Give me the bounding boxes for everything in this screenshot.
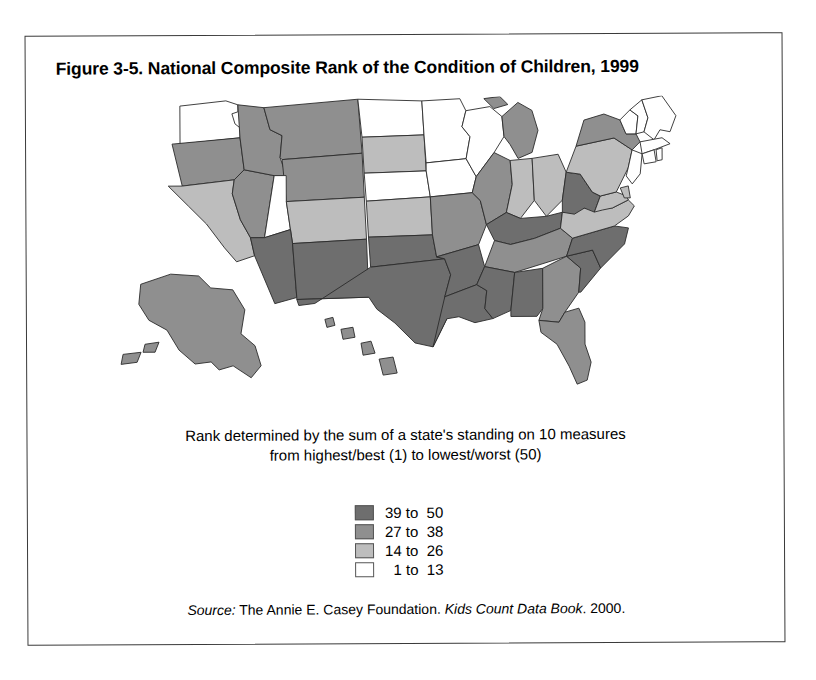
state-hi: Hawaii [379, 357, 397, 375]
state-hi: Hawaii [325, 317, 335, 327]
state-ia: Iowa [426, 159, 476, 197]
state-ri: Rhode Island [656, 148, 662, 161]
map-caption: Rank determined by the sum of a state's … [27, 423, 783, 467]
source-label: Source: [187, 602, 235, 618]
legend-row: 14 to 26 [355, 541, 457, 560]
legend-swatch [355, 524, 374, 539]
figure-frame: Figure 3-5. National Composite Rank of t… [25, 32, 786, 646]
source-publication: Kids Count Data Book [445, 600, 583, 617]
legend-swatch [355, 505, 374, 520]
legend-label: 14 to 26 [385, 542, 457, 559]
us-choropleth-map: WashingtonOregonCaliforniaNevadaIdahoMon… [114, 96, 696, 409]
states-group: WashingtonOregonCaliforniaNevadaIdahoMon… [120, 96, 677, 387]
state-oh: Ohio [532, 154, 566, 216]
source-publisher: The Annie E. Casey Foundation. [236, 601, 445, 618]
state-nd: North Dakota [358, 99, 424, 137]
legend-label: 39 to 50 [385, 504, 457, 521]
legend-swatch [355, 562, 374, 577]
map-legend: 39 to 5027 to 3814 to 26 1 to 13 [28, 501, 784, 581]
caption-line-2: from highest/best (1) to lowest/worst (5… [28, 443, 784, 467]
legend-row: 1 to 13 [355, 560, 457, 579]
state-hi: Hawaii [361, 341, 375, 355]
state-sd: South Dakota [362, 135, 426, 173]
state-ak: Alaska [139, 274, 262, 379]
state-ma: Massachusetts [640, 138, 670, 154]
state-az: Arizona [250, 230, 296, 304]
legend-swatch [355, 543, 374, 558]
legend-label: 27 to 38 [385, 523, 457, 540]
state-ne: Nebraska [364, 171, 430, 201]
state-mn: Minnesota [422, 99, 470, 163]
legend-row: 27 to 38 [355, 522, 457, 541]
state-co: Colorado [286, 197, 366, 243]
figure-title: Figure 3-5. National Composite Rank of t… [56, 56, 639, 80]
state-mi: Michigan [502, 102, 538, 158]
legend-row: 39 to 50 [355, 503, 457, 522]
state-ks: Kansas [366, 197, 432, 237]
state-ak: Alaska [121, 352, 141, 364]
state-al: Alabama [511, 268, 543, 316]
state-ak: Alaska [143, 342, 159, 352]
source-year: . 2000. [582, 600, 625, 616]
source-line: Source: The Annie E. Casey Foundation. K… [28, 599, 784, 619]
legend-label: 1 to 13 [385, 561, 457, 578]
state-wa: Washington [180, 101, 240, 144]
state-or: Oregon [172, 138, 244, 186]
state-wy: Wyoming [282, 153, 364, 201]
state-hi: Hawaii [341, 327, 355, 339]
